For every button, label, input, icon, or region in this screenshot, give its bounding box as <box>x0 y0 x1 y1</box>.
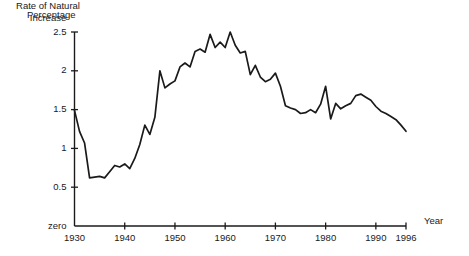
x-axis <box>75 223 407 230</box>
y-axis <box>71 32 78 226</box>
y-axis-tick-label: 1.5 <box>0 103 67 114</box>
y-axis-tick-label: zero <box>0 220 67 231</box>
y-axis-tick-label: 2.5 <box>0 26 67 37</box>
chart-container: Percentage Year Rate of Natural Increase… <box>0 0 469 256</box>
plot-area <box>0 0 469 256</box>
y-axis-tick-label: 1 <box>0 142 67 153</box>
data-series-line <box>75 32 407 178</box>
x-axis-tick-label: 1930 <box>55 232 95 243</box>
x-axis-tick-label: 1960 <box>205 232 245 243</box>
x-axis-tick-label: 1980 <box>306 232 346 243</box>
data-series-group <box>75 32 407 178</box>
x-axis-tick-label: 1970 <box>255 232 295 243</box>
x-axis-tick-label: 1940 <box>105 232 145 243</box>
y-axis-tick-label: 0.5 <box>0 181 67 192</box>
x-axis-tick-label: 1996 <box>386 232 426 243</box>
y-axis-tick-label: 2 <box>0 64 67 75</box>
x-axis-tick-label: 1950 <box>155 232 195 243</box>
